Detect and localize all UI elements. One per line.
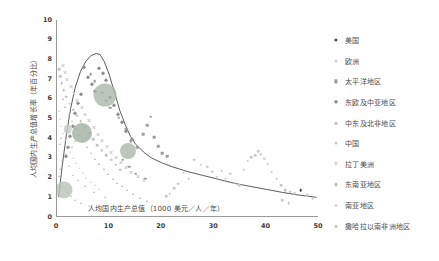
legend-item[interactable]: 中国: [331, 133, 437, 154]
legend-item-label: 欧洲: [345, 56, 360, 66]
legend-item[interactable]: 撒哈拉以南非洲地区: [331, 215, 437, 236]
tri-marker-icon: [331, 201, 340, 210]
legend: 美国欧洲太平洋地区东欧及中亚地区中东及北非地区中国拉丁美洲东南亚地区南亚地区撒哈…: [331, 30, 437, 236]
legend-item-label: 东南亚地区: [345, 179, 382, 189]
legend-item[interactable]: 美国: [331, 30, 437, 51]
legend-item-label: 太平洋地区: [345, 76, 382, 86]
trend-line: [57, 20, 318, 216]
legend-item-label: 美国: [345, 35, 360, 45]
legend-item-label: 中东及北非地区: [345, 118, 396, 128]
legend-item[interactable]: 南亚地区: [331, 195, 437, 216]
tri-marker-icon: [331, 118, 340, 127]
y-tick-label: 10: [34, 17, 52, 24]
dot-marker-icon: [331, 139, 340, 148]
x-tick-label: 10: [97, 222, 119, 230]
diam-marker-icon: [331, 98, 340, 107]
legend-item[interactable]: 欧洲: [331, 51, 437, 72]
tri-marker-icon: [331, 221, 340, 230]
x-axis-title: 人均国内生产总值（1000 美元／人／年）: [88, 203, 224, 213]
plot-inner: [57, 20, 318, 216]
dot-marker-icon: [331, 56, 340, 65]
dot-marker-icon: [331, 36, 340, 45]
bubble-marker: [72, 123, 92, 143]
x-tick-label: 50: [307, 222, 329, 230]
legend-item-label: 东欧及中亚地区: [345, 97, 396, 107]
sq-marker-icon: [331, 77, 340, 86]
legend-item[interactable]: 拉丁美洲: [331, 154, 437, 175]
y-tick-label: 1: [34, 194, 52, 201]
x-tick-label: 0: [45, 222, 67, 230]
chart-root: 012345678910 人均国内生产总值增长率（年百分比） 010203040…: [0, 0, 439, 261]
legend-item[interactable]: 中东及北非地区: [331, 112, 437, 133]
legend-item-label: 拉丁美洲: [345, 159, 374, 169]
bubble-marker: [93, 83, 116, 106]
legend-item[interactable]: 东南亚地区: [331, 174, 437, 195]
bubble-marker: [120, 143, 136, 159]
dot-marker-icon: [331, 180, 340, 189]
x-marker-icon: [331, 159, 340, 168]
legend-item-label: 撒哈拉以南非洲地区: [345, 221, 411, 231]
legend-item-label: 中国: [345, 138, 360, 148]
x-tick-label: 40: [255, 222, 277, 230]
legend-item-label: 南亚地区: [345, 200, 374, 210]
x-tick-label: 30: [202, 222, 224, 230]
legend-item[interactable]: 太平洋地区: [331, 71, 437, 92]
x-tick-label: 20: [150, 222, 172, 230]
plot-area: [56, 20, 318, 217]
y-axis-title: 人均国内生产总值增长率（年百分比）: [28, 42, 38, 192]
legend-item[interactable]: 东欧及中亚地区: [331, 92, 437, 113]
y-axis-title-host: 人均国内生产总值增长率（年百分比）: [24, 34, 40, 194]
y-tick-label: 0: [34, 214, 52, 221]
